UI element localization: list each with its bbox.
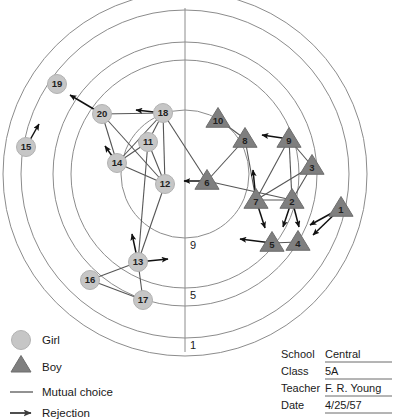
node-label: 8	[242, 135, 247, 146]
student-node-20[interactable]: 20	[93, 105, 112, 124]
node-label: 14	[112, 157, 123, 168]
mutual-choice-line	[256, 139, 289, 200]
node-label: 15	[21, 141, 32, 152]
form-label-school: School	[281, 348, 315, 360]
node-label: 18	[158, 107, 169, 118]
legend-label-girl: Girl	[42, 334, 60, 346]
legend-boy-icon	[11, 356, 31, 373]
student-node-18[interactable]: 18	[154, 104, 173, 123]
node-label: 9	[286, 135, 291, 146]
student-node-4[interactable]: 4	[286, 231, 310, 251]
mutual-choice-line	[102, 114, 165, 184]
form-value-class[interactable]: 5A	[325, 365, 339, 377]
ring-label: 5	[190, 289, 196, 301]
form-value-school[interactable]: Central	[325, 348, 360, 360]
student-node-13[interactable]: 13	[129, 253, 148, 272]
student-node-16[interactable]: 16	[81, 271, 100, 290]
node-label: 13	[133, 256, 144, 267]
form-label-class: Class	[281, 365, 309, 377]
node-label: 2	[289, 196, 294, 207]
student-node-19[interactable]: 19	[48, 75, 67, 94]
ring-label: 9	[190, 239, 196, 251]
node-label: 16	[85, 274, 96, 285]
student-node-7[interactable]: 7	[244, 189, 268, 209]
node-label: 5	[269, 239, 275, 250]
legend-girl-icon	[12, 331, 31, 350]
student-node-14[interactable]: 14	[108, 154, 127, 173]
mutual-choice-line	[138, 184, 165, 262]
legend-label-rejection: Rejection	[42, 407, 90, 419]
mutual-choice-edges	[90, 113, 312, 300]
form-label-teacher: Teacher	[281, 382, 320, 394]
mutual-choice-line	[207, 181, 292, 200]
student-node-17[interactable]: 17	[134, 291, 153, 310]
student-node-1[interactable]: 1	[329, 197, 353, 217]
student-node-8[interactable]: 8	[233, 128, 257, 148]
node-label: 11	[143, 136, 154, 147]
student-node-3[interactable]: 3	[300, 155, 324, 175]
form-label-date: Date	[281, 399, 304, 411]
student-node-12[interactable]: 12	[156, 175, 175, 194]
node-label: 3	[309, 162, 314, 173]
ring-label: 1	[190, 339, 196, 351]
legend: Girl Boy Mutual choice Rejection	[10, 331, 113, 419]
node-label: 20	[97, 108, 108, 119]
legend-label-boy: Boy	[42, 361, 62, 373]
node-label: 7	[253, 196, 258, 207]
record-form: SchoolCentralClass5ATeacherF. R. YoungDa…	[281, 348, 392, 413]
mutual-choice-line	[163, 113, 165, 184]
ring-labels: 951	[190, 239, 196, 351]
legend-label-mutual-choice: Mutual choice	[42, 386, 113, 398]
sociogram-figure: 951 1915201811141213161710893672154 Girl…	[0, 0, 394, 419]
node-label: 4	[295, 238, 301, 249]
student-node-11[interactable]: 11	[139, 133, 158, 152]
node-label: 1	[338, 204, 344, 215]
node-label: 17	[138, 294, 149, 305]
form-value-teacher[interactable]: F. R. Young	[325, 382, 381, 394]
node-label: 19	[52, 78, 63, 89]
form-value-date[interactable]: 4/25/57	[325, 399, 362, 411]
node-label: 12	[160, 178, 171, 189]
student-node-10[interactable]: 10	[206, 108, 230, 128]
node-label: 10	[213, 115, 224, 126]
student-node-15[interactable]: 15	[17, 138, 36, 157]
node-label: 6	[204, 177, 209, 188]
